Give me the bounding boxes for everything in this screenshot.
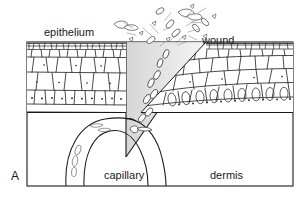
panel-letter-a: A: [11, 169, 19, 183]
label-dermis: dermis: [210, 169, 244, 181]
skin-wound-diagram: epithelium wound capillary dermis A: [0, 0, 305, 200]
label-capillary: capillary: [104, 169, 145, 181]
epithelium-left: [27, 42, 126, 113]
figure-panel: epithelium wound capillary dermis A: [0, 0, 305, 200]
blood-spray: [114, 4, 216, 46]
label-epithelium: epithelium: [44, 26, 94, 38]
label-wound: wound: [201, 34, 234, 46]
